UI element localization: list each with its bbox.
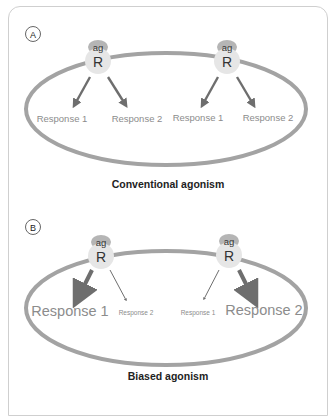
svg-text:ag: ag <box>224 236 235 247</box>
svg-text:B: B <box>30 223 36 233</box>
panel-label-a: A <box>26 27 41 42</box>
receptor-left: ag R <box>85 40 111 74</box>
svg-text:R: R <box>96 249 106 265</box>
svg-text:ag: ag <box>222 42 233 53</box>
svg-text:A: A <box>30 30 36 40</box>
response-label-small: Response 2 <box>119 309 154 317</box>
panel-label-b: B <box>26 220 41 235</box>
svg-text:ag: ag <box>96 237 107 248</box>
receptor-right: ag R <box>214 40 240 74</box>
receptor-right: ag R <box>216 234 242 268</box>
panel-caption: Biased agonism <box>128 370 209 382</box>
arrow-response-2 <box>237 77 253 104</box>
response-label: Response 1 <box>173 112 224 123</box>
arrow-response-1-weak <box>204 270 219 299</box>
arrow-response-2-weak <box>110 270 126 300</box>
svg-text:R: R <box>93 54 103 70</box>
arrow-response-1 <box>203 77 218 104</box>
svg-text:R: R <box>222 54 232 70</box>
svg-text:ag: ag <box>93 42 104 53</box>
arrow-response-2-strong <box>239 270 252 296</box>
response-label: Response 2 <box>243 112 294 123</box>
arrow-response-2 <box>108 77 125 104</box>
svg-text:R: R <box>224 248 234 264</box>
cell-membrane <box>26 53 306 165</box>
panel-caption: Conventional agonism <box>112 178 225 190</box>
receptor-left: ag R <box>88 235 114 269</box>
arrow-response-1 <box>75 77 90 104</box>
response-label-large: Response 1 <box>31 303 108 319</box>
response-label: Response 2 <box>112 113 163 124</box>
panel-a: A ag R Response 1 Response 2 ag R Respon… <box>26 27 307 191</box>
panel-b: B ag R Response 1 Response 2 ag R Respon… <box>26 220 307 383</box>
response-label-large: Response 2 <box>225 302 302 318</box>
response-label: Response 1 <box>37 113 88 124</box>
response-label-small: Response 1 <box>181 309 216 317</box>
arrow-response-1-strong <box>79 270 92 296</box>
